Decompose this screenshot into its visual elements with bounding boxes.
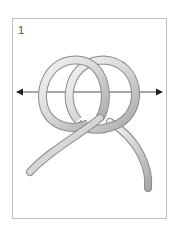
arrow-left-icon [16, 89, 23, 96]
arrow-right-icon [156, 89, 163, 96]
knot-illustration [0, 0, 181, 229]
rope-tail-right [110, 122, 148, 188]
